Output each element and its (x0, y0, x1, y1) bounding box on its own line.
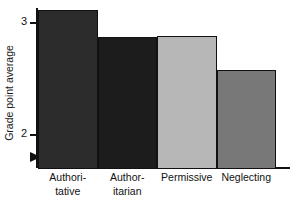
y-axis-tick-mark (30, 22, 38, 24)
bar (157, 36, 217, 168)
bar (38, 10, 98, 168)
bar (217, 70, 277, 168)
y-axis-tick-label: 3 (13, 15, 27, 27)
x-axis-tick-labels: Authori- tativeAuthor- itarianPermissive… (38, 171, 298, 203)
bar (98, 37, 158, 168)
bar-chart-figure: Grade point average 23 Authori- tativeAu… (0, 0, 306, 203)
bars-group (38, 0, 276, 168)
y-axis-tick-label: 2 (13, 127, 27, 139)
y-axis-tick-mark (30, 134, 38, 136)
y-axis-title: Grade point average (1, 18, 17, 168)
x-axis-tick-label: Neglecting (209, 171, 285, 185)
